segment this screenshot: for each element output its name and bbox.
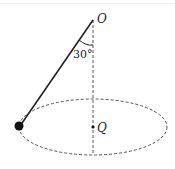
angle-label: 30° [73,48,93,61]
pendulum-bob [15,122,24,131]
pivot-label: O [97,12,107,26]
string [20,20,93,126]
center-point [91,125,94,128]
conical-pendulum-diagram: O 30° Q [0,0,175,169]
angle-arc [79,40,93,45]
center-label: Q [97,121,107,135]
